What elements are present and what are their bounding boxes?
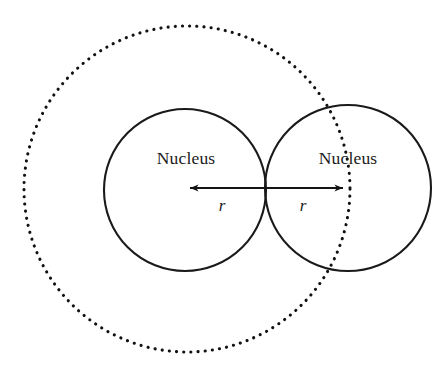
right-nucleus-label: Nucleus [319, 148, 378, 168]
left-radius-label: r [219, 196, 226, 215]
left-nucleus-circle [104, 109, 266, 271]
nucleus-tangent-diagram: Nucleus Nucleus r r [0, 0, 446, 374]
left-nucleus-label: Nucleus [157, 148, 216, 168]
dotted-enclosing-circle [24, 26, 350, 352]
diagram-canvas: Nucleus Nucleus r r [0, 0, 446, 374]
right-radius-label: r [300, 196, 307, 215]
